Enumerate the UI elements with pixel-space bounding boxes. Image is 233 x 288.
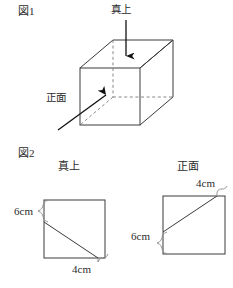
- front-view-group: [157, 186, 227, 254]
- front-view-left-brace: [157, 232, 167, 254]
- top-view-square: [44, 200, 105, 258]
- front-view-square: [163, 196, 225, 254]
- top-view-left-brace: [38, 200, 48, 222]
- front-view-diagonal-line: [163, 196, 217, 232]
- top-view-diagonal-line: [44, 222, 98, 258]
- worksheet-page: 図1 真上 正面: [0, 0, 233, 288]
- front-view-top-brace: [217, 186, 227, 192]
- figure2-views-drawing: [0, 0, 233, 288]
- top-view-group: [38, 200, 108, 262]
